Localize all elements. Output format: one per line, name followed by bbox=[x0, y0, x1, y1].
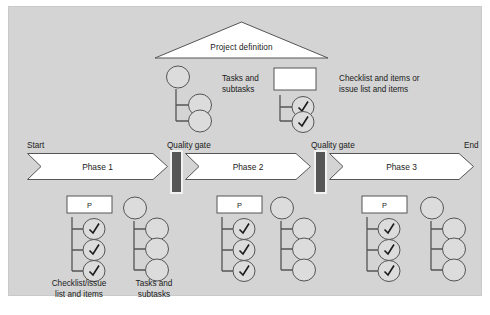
group-phase-2-checklist-tree: P bbox=[216, 195, 272, 279]
quality-gate-1-label: Quality gate bbox=[167, 141, 211, 150]
legend-tasks-label: Tasks and subtasks bbox=[222, 74, 259, 95]
group-phase-2-task-tree bbox=[271, 197, 321, 277]
phase-3-label: Phase 3 bbox=[329, 153, 474, 180]
project-definition-triangle bbox=[154, 21, 329, 59]
figure-panel: Project definition Tasks and subtasks Ch… bbox=[8, 6, 482, 296]
phase-2-arrow[interactable]: Phase 2 bbox=[185, 153, 311, 180]
legend-checklist-tree-icon bbox=[272, 65, 328, 127]
start-label: Start bbox=[27, 141, 44, 150]
tasks-subtasks-group-label: Tasks and subtasks bbox=[123, 279, 185, 300]
phase-3-arrow[interactable]: Phase 3 bbox=[329, 153, 474, 180]
legend-checklist-label: Checklist and items or issue list and it… bbox=[339, 74, 420, 95]
project-definition-label: Project definition bbox=[154, 43, 329, 52]
legend-task-tree-icon bbox=[166, 65, 214, 127]
group-phase-1-checklist-tree: P bbox=[66, 195, 122, 279]
end-label: End bbox=[464, 141, 479, 150]
checklist-header-letter: P bbox=[382, 201, 387, 210]
group-phase-1-task-tree bbox=[124, 197, 174, 277]
checklist-header-letter: P bbox=[87, 201, 92, 210]
checklist-issue-group-label: Checklist/issue list and items bbox=[41, 279, 117, 300]
group-phase-3-task-tree bbox=[421, 197, 471, 277]
phase-1-arrow[interactable]: Phase 1 bbox=[27, 153, 168, 180]
checklist-header-letter: P bbox=[237, 201, 242, 210]
quality-gate-2[interactable] bbox=[314, 150, 327, 194]
phase-2-label: Phase 2 bbox=[185, 153, 311, 180]
phase-1-label: Phase 1 bbox=[27, 153, 168, 180]
group-phase-3-checklist-tree: P bbox=[361, 195, 417, 279]
quality-gate-2-label: Quality gate bbox=[311, 141, 355, 150]
quality-gate-1[interactable] bbox=[170, 150, 183, 194]
